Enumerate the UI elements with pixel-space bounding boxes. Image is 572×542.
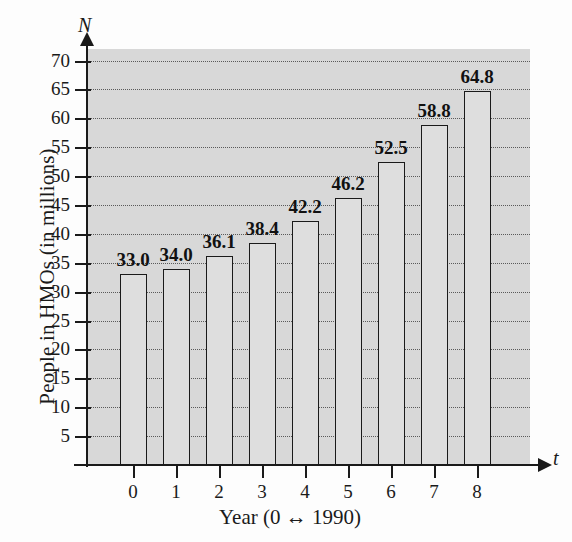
y-axis-tick-label: 25 <box>30 311 70 330</box>
x-axis-tick <box>305 465 307 478</box>
x-axis-tick-label: 0 <box>118 482 148 501</box>
y-axis-tick-label: 55 <box>30 137 70 156</box>
y-axis-tick-label: 35 <box>30 253 70 272</box>
bar <box>464 91 491 465</box>
bar <box>335 198 362 465</box>
x-axis-title: Year (0 ↔ 1990) <box>120 505 460 530</box>
x-axis-tick-label: 1 <box>161 482 191 501</box>
x-axis-tick <box>176 465 178 478</box>
x-axis-tick-label: 5 <box>333 482 363 501</box>
y-axis-tick <box>75 436 91 438</box>
x-axis-tick <box>477 465 479 478</box>
x-axis-tick <box>348 465 350 478</box>
x-axis-tick <box>133 465 135 478</box>
bar <box>292 221 319 465</box>
y-axis-tick-label: 10 <box>30 397 70 416</box>
y-axis-tick <box>75 378 91 380</box>
chart-figure: People in HMOs (in millions) N 510152025… <box>0 0 572 542</box>
x-axis-tick-label: 8 <box>462 482 492 501</box>
bar <box>120 274 147 465</box>
y-axis-tick <box>75 205 91 207</box>
y-axis-tick-label: 70 <box>30 51 70 70</box>
y-axis-tick-label: 30 <box>30 282 70 301</box>
y-axis-tick <box>75 147 91 149</box>
y-axis-tick <box>75 263 91 265</box>
y-axis-tick <box>75 321 91 323</box>
x-axis-tick-label: 2 <box>204 482 234 501</box>
y-axis-tick-label: 60 <box>30 108 70 127</box>
y-axis-tick <box>75 292 91 294</box>
bar-value-label: 58.8 <box>406 101 462 120</box>
y-axis-tick-label: 5 <box>30 426 70 445</box>
x-axis-tick-label: 3 <box>247 482 277 501</box>
x-axis-tick-label: 7 <box>419 482 449 501</box>
y-axis-arrow-icon <box>80 32 94 46</box>
x-axis-variable-label: t <box>553 447 559 470</box>
x-axis-tick-label: 6 <box>376 482 406 501</box>
y-axis-tick <box>75 349 91 351</box>
y-axis-tick <box>75 89 91 91</box>
y-axis-tick-label: 50 <box>30 166 70 185</box>
y-axis-tick <box>75 176 91 178</box>
y-axis-tick-label: 15 <box>30 368 70 387</box>
y-axis-tick-label: 40 <box>30 224 70 243</box>
bar-value-label: 64.8 <box>449 67 505 86</box>
y-axis-line <box>86 44 88 467</box>
x-axis-tick <box>219 465 221 478</box>
bar <box>249 243 276 465</box>
x-axis-tick <box>434 465 436 478</box>
bar <box>378 162 405 465</box>
y-axis-tick <box>75 118 91 120</box>
y-axis-tick-label: 20 <box>30 339 70 358</box>
bar-value-label: 52.5 <box>363 138 419 157</box>
y-axis-tick-label: 65 <box>30 79 70 98</box>
bar <box>206 256 233 465</box>
y-axis-tick <box>75 407 91 409</box>
x-axis-line <box>74 464 542 466</box>
bar-value-label: 38.4 <box>234 219 290 238</box>
x-axis-tick <box>391 465 393 478</box>
bar <box>421 125 448 465</box>
bar <box>163 269 190 465</box>
y-axis-tick <box>75 61 91 63</box>
x-axis-tick-label: 4 <box>290 482 320 501</box>
bar-value-label: 46.2 <box>320 174 376 193</box>
gridline <box>88 61 530 62</box>
x-axis-arrow-icon <box>538 458 552 472</box>
y-axis-tick <box>75 234 91 236</box>
bar-value-label: 42.2 <box>277 197 333 216</box>
y-axis-title: People in HMOs (in millions) <box>35 112 60 442</box>
x-axis-tick <box>262 465 264 478</box>
y-axis-tick-label: 45 <box>30 195 70 214</box>
